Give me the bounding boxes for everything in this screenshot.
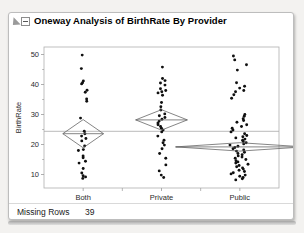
data-point[interactable] — [163, 116, 166, 119]
data-point[interactable] — [236, 69, 239, 72]
oneway-scatter-chart[interactable]: 1020304050BirthRateBothPrivatePublicProv… — [9, 31, 294, 203]
window-bottom-shadow — [8, 221, 296, 225]
data-point[interactable] — [84, 160, 87, 163]
x-tick-label-private: Private — [150, 193, 173, 202]
data-point[interactable] — [160, 174, 163, 177]
data-point[interactable] — [241, 135, 244, 138]
data-point[interactable] — [160, 90, 163, 93]
data-point[interactable] — [84, 175, 87, 178]
data-point[interactable] — [159, 82, 162, 85]
data-point[interactable] — [245, 134, 248, 137]
data-point[interactable] — [161, 94, 164, 97]
data-point[interactable] — [232, 147, 235, 150]
missing-rows-value: 39 — [85, 207, 94, 217]
data-point[interactable] — [161, 77, 164, 80]
page-title: Oneway Analysis of BirthRate By Provider — [34, 15, 227, 26]
data-point[interactable] — [241, 156, 244, 159]
data-point[interactable] — [235, 121, 238, 124]
panel-titlebar[interactable]: Oneway Analysis of BirthRate By Provider — [9, 13, 294, 31]
data-point[interactable] — [81, 54, 84, 57]
data-point[interactable] — [85, 100, 88, 103]
data-point[interactable] — [158, 114, 161, 117]
data-point[interactable] — [233, 58, 236, 61]
data-point[interactable] — [84, 137, 87, 140]
data-point[interactable] — [243, 151, 246, 154]
data-point[interactable] — [230, 172, 233, 175]
data-point[interactable] — [80, 172, 83, 175]
data-point[interactable] — [161, 66, 164, 69]
data-point[interactable] — [238, 175, 241, 178]
data-point[interactable] — [244, 174, 247, 177]
data-point[interactable] — [241, 177, 244, 180]
data-point[interactable] — [160, 130, 163, 133]
data-point[interactable] — [245, 123, 248, 126]
panel-footer: Missing Rows 39 — [9, 203, 294, 220]
y-tick-label-40: 40 — [31, 80, 39, 89]
data-point[interactable] — [81, 177, 84, 180]
data-point[interactable] — [156, 135, 159, 138]
data-point[interactable] — [232, 55, 235, 58]
data-point[interactable] — [237, 154, 240, 157]
data-point[interactable] — [243, 170, 246, 173]
data-point[interactable] — [164, 157, 167, 160]
y-tick-label-30: 30 — [31, 110, 39, 119]
data-point[interactable] — [77, 149, 80, 152]
data-point[interactable] — [230, 130, 233, 133]
data-point[interactable] — [159, 87, 162, 90]
data-point[interactable] — [158, 169, 161, 172]
data-point[interactable] — [164, 84, 167, 87]
collapse-box-icon[interactable] — [21, 17, 30, 26]
data-point[interactable] — [161, 147, 164, 150]
data-point[interactable] — [247, 163, 250, 166]
data-point[interactable] — [238, 87, 241, 90]
data-point[interactable] — [78, 162, 81, 165]
data-point[interactable] — [244, 158, 247, 161]
data-point[interactable] — [163, 144, 166, 147]
data-point[interactable] — [164, 89, 167, 92]
data-point[interactable] — [161, 118, 164, 121]
data-point[interactable] — [80, 82, 83, 85]
data-point[interactable] — [80, 67, 83, 70]
data-point[interactable] — [160, 101, 163, 104]
application-root: Oneway Analysis of BirthRate By Provider… — [0, 0, 304, 233]
data-point[interactable] — [230, 97, 233, 100]
data-point[interactable] — [234, 90, 237, 93]
y-tick-label-10: 10 — [31, 170, 39, 179]
data-point[interactable] — [162, 176, 165, 179]
data-point[interactable] — [235, 165, 238, 168]
data-point[interactable] — [158, 152, 161, 155]
data-point[interactable] — [163, 112, 166, 115]
y-axis-label: BirthRate — [14, 102, 23, 133]
data-point[interactable] — [164, 163, 167, 166]
oneway-analysis-panel: Oneway Analysis of BirthRate By Provider… — [8, 12, 294, 220]
data-point[interactable] — [80, 135, 83, 138]
x-tick-label-public: Public — [230, 193, 251, 202]
data-point[interactable] — [240, 125, 243, 128]
data-point[interactable] — [157, 91, 160, 94]
data-point[interactable] — [242, 89, 245, 92]
data-point[interactable] — [234, 178, 237, 181]
data-point[interactable] — [82, 167, 85, 170]
x-tick-label-both: Both — [75, 193, 90, 202]
y-tick-label-20: 20 — [31, 140, 39, 149]
data-point[interactable] — [157, 123, 160, 126]
data-point[interactable] — [79, 117, 82, 120]
data-point[interactable] — [237, 145, 240, 148]
data-point[interactable] — [234, 136, 237, 139]
data-point[interactable] — [84, 91, 87, 94]
data-point[interactable] — [234, 162, 237, 165]
y-tick-label-50: 50 — [31, 50, 39, 59]
data-point[interactable] — [242, 119, 245, 122]
data-point[interactable] — [238, 169, 241, 172]
data-point[interactable] — [80, 139, 83, 142]
data-point[interactable] — [235, 81, 238, 84]
data-point[interactable] — [245, 63, 248, 66]
data-point[interactable] — [159, 105, 162, 108]
data-point[interactable] — [82, 148, 85, 151]
data-point[interactable] — [164, 79, 167, 82]
data-point[interactable] — [229, 144, 232, 147]
data-point[interactable] — [82, 156, 85, 159]
disclosure-triangle-icon[interactable] — [9, 17, 20, 28]
data-point[interactable] — [243, 85, 246, 88]
data-point[interactable] — [232, 93, 235, 96]
